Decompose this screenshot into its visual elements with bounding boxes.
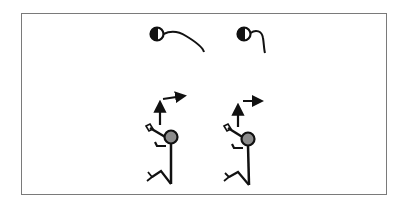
head-short-hook-icon xyxy=(238,28,266,54)
jumping-figure-1-icon xyxy=(146,96,183,184)
jumping-figure-2-icon xyxy=(224,101,260,185)
diagram-canvas xyxy=(0,0,405,209)
head-long-curve-icon xyxy=(151,28,205,53)
